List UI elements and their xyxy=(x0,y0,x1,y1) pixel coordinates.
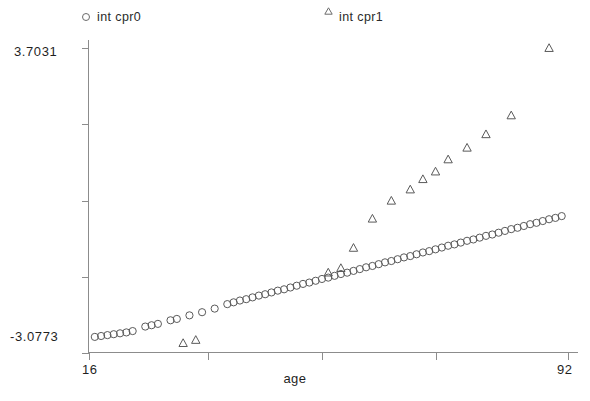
data-point-triangle xyxy=(545,44,553,52)
data-point-triangle xyxy=(482,130,490,138)
data-point-triangle xyxy=(179,339,187,347)
data-point-triangle xyxy=(368,214,376,222)
data-point-triangle xyxy=(192,336,200,344)
y-axis-label-min: -3.0773 xyxy=(10,329,58,344)
data-point-triangle xyxy=(419,175,427,183)
data-point-circle xyxy=(198,309,205,316)
data-point-triangle xyxy=(463,143,471,151)
data-point-triangle xyxy=(431,167,439,175)
tick-marks xyxy=(82,49,569,361)
x-axis-title: age xyxy=(0,371,590,386)
data-point-triangle xyxy=(349,244,357,252)
data-point-circle xyxy=(186,312,193,319)
axes xyxy=(89,40,579,353)
data-point-circle xyxy=(558,213,565,220)
plot-area xyxy=(0,0,590,401)
y-axis-label-max: 3.7031 xyxy=(14,44,57,59)
data-point-triangle xyxy=(406,185,414,193)
data-point-triangle xyxy=(387,196,395,204)
scatter-chart: int cpr0 int cpr1 3.7031 -3.0773 16 92 a… xyxy=(0,0,590,401)
data-points xyxy=(91,44,565,347)
data-point-triangle xyxy=(444,155,452,163)
data-point-triangle xyxy=(507,111,515,119)
data-point-circle xyxy=(211,305,218,312)
